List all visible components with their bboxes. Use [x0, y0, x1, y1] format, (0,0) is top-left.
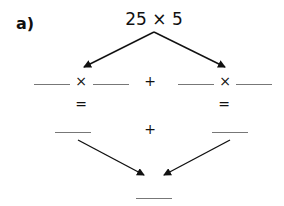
plus-sign-middle: +	[143, 121, 157, 137]
times-sign-left: ×	[74, 73, 88, 89]
answer-blank-2[interactable]	[93, 84, 129, 85]
arrow-left-top	[84, 32, 154, 67]
answer-blank-6[interactable]	[212, 132, 248, 133]
arrow-left-bottom	[78, 140, 144, 175]
answer-blank-3[interactable]	[178, 84, 214, 85]
plus-sign-top: +	[143, 73, 157, 89]
arrow-right-top	[154, 32, 225, 67]
times-sign-right: ×	[218, 73, 232, 89]
equals-sign-left: =	[74, 96, 88, 112]
answer-blank-final[interactable]	[136, 198, 172, 199]
answer-blank-1[interactable]	[34, 84, 70, 85]
answer-blank-5[interactable]	[55, 132, 91, 133]
arrows	[0, 0, 284, 206]
answer-blank-4[interactable]	[236, 84, 272, 85]
equals-sign-right: =	[217, 96, 231, 112]
arrow-right-bottom	[164, 140, 230, 175]
